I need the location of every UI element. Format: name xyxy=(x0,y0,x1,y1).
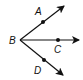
rays-diagram: A B C D xyxy=(0,0,83,80)
point-a-dot xyxy=(41,20,45,24)
label-b: B xyxy=(9,35,16,46)
label-c: C xyxy=(54,44,62,55)
point-c-dot xyxy=(56,38,60,42)
point-d-dot xyxy=(42,58,46,62)
label-a: A xyxy=(34,6,42,17)
label-d: D xyxy=(34,65,41,76)
